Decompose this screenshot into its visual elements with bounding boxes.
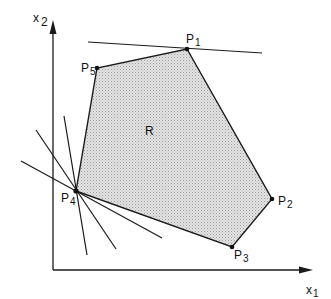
x-axis-arrow-icon [299, 267, 313, 274]
vertex-label-p4: P4 [61, 191, 76, 207]
x-axis-label: x1 [306, 283, 319, 299]
vertex-p4 [73, 188, 78, 193]
y-axis-label: x2 [33, 11, 48, 29]
region-label: R [145, 124, 154, 138]
vertex-p2 [270, 197, 275, 202]
y-axis-arrow-icon [50, 20, 57, 34]
vertex-label-p1: P1 [186, 32, 201, 48]
vertex-label-p5: P5 [81, 61, 96, 77]
feasible-region-r [76, 49, 272, 247]
diagram-canvas: x2 x1 R P1 P2 P3 P4 P5 [0, 0, 331, 299]
vertex-label-p3: P3 [234, 248, 249, 264]
vertex-label-p2: P2 [278, 194, 293, 210]
vertex-p1 [185, 47, 190, 52]
